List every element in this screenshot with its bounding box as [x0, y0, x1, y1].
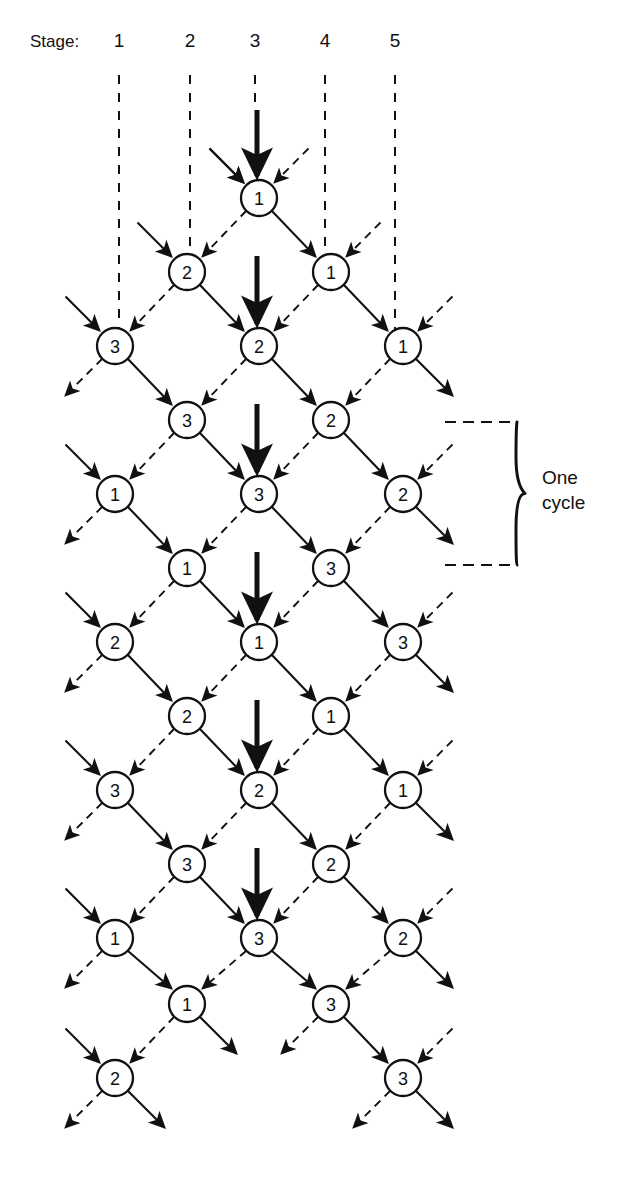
edge-dashed-down-left [131, 433, 175, 479]
lattice-node: 3 [313, 986, 349, 1022]
node-label: 3 [110, 781, 120, 801]
edge-solid-down-right [272, 359, 316, 405]
edge-dashed-stub-in-upper-right [419, 297, 453, 331]
edge-dashed-stub-in-upper-right [419, 1029, 453, 1063]
node-label: 2 [326, 855, 336, 875]
edge-solid-down-right [200, 433, 244, 479]
edge-solid-down-right [200, 877, 244, 923]
stage-tick-3: 3 [250, 30, 261, 51]
lattice-node: 2 [97, 624, 133, 660]
edge-dashed-down-left [275, 581, 319, 627]
node-label: 2 [182, 263, 192, 283]
lattice-node: 3 [241, 920, 277, 956]
edge-solid-down-right [128, 507, 172, 553]
edge-solid-stub-down-right [416, 1091, 453, 1128]
node-label: 2 [182, 707, 192, 727]
edge-dashed-down-left [347, 359, 391, 405]
edge-solid-down-right [200, 1017, 237, 1054]
edge-solid-stub-down-right [416, 359, 453, 396]
node-label: 3 [254, 485, 264, 505]
edge-dashed-stub-in-upper-right [419, 889, 453, 923]
lattice-node: 2 [385, 920, 421, 956]
edge-solid-stub-in-upper-left [138, 223, 172, 257]
edge-solid-down-right [344, 433, 388, 479]
edge-solid-stub-in-upper-left [66, 593, 100, 627]
node-label: 1 [110, 929, 120, 949]
lattice-node: 2 [169, 254, 205, 290]
stage-axis-layer: Stage:12345 [30, 30, 400, 51]
stage-tick-5: 5 [390, 30, 401, 51]
lattice-node: 3 [169, 402, 205, 438]
lattice-node: 1 [169, 986, 205, 1022]
node-label: 1 [326, 707, 336, 727]
edge-solid-down-right [272, 803, 316, 849]
edge-dashed-down-left [203, 507, 247, 553]
edge-solid-down-right [344, 729, 388, 775]
node-label: 1 [398, 781, 408, 801]
node-label: 3 [110, 337, 120, 357]
lattice-node: 2 [241, 328, 277, 364]
lattice-node: 1 [385, 328, 421, 364]
edge-solid-down-right [200, 729, 244, 775]
cycle-brace [516, 422, 525, 565]
stage-tick-4: 4 [320, 30, 331, 51]
edge-dashed-down-left [347, 507, 391, 553]
lattice-node: 2 [313, 846, 349, 882]
edge-solid-down-right [344, 1017, 388, 1063]
edge-solid-down-right [272, 655, 316, 701]
edge-solid-down-right [344, 877, 388, 923]
stage-tick-2: 2 [185, 30, 196, 51]
edge-dashed-down-left [203, 655, 247, 701]
edge-dashed-down-left [203, 951, 247, 989]
node-label: 3 [182, 411, 192, 431]
edge-solid-down-right [272, 211, 316, 257]
lattice-node: 3 [313, 550, 349, 586]
edge-dashed-stub-in-upper-right [419, 445, 453, 479]
edge-dashed-down-left [347, 803, 391, 849]
node-label: 1 [182, 559, 192, 579]
lattice-node: 3 [97, 772, 133, 808]
node-label: 3 [182, 855, 192, 875]
edge-dashed-stub-in-upper-right [419, 741, 453, 775]
figure-canvas: 121321321321321321321321321323 Stage:123… [0, 0, 628, 1184]
edge-solid-down-right [200, 581, 244, 627]
node-label: 3 [326, 995, 336, 1015]
edge-solid-stub-in-upper-left [66, 445, 100, 479]
lattice-node: 3 [241, 476, 277, 512]
lattice-node: 2 [97, 1060, 133, 1096]
edge-dashed-down-left [131, 285, 175, 331]
edge-dashed-stub-down-left [66, 507, 103, 544]
edge-solid-stub-down-right [416, 803, 453, 840]
node-label: 2 [110, 633, 120, 653]
edge-solid-stub-in-upper-left [66, 741, 100, 775]
lattice-node: 2 [241, 772, 277, 808]
edge-solid-down-right [344, 581, 388, 627]
edge-solid-down-right [272, 951, 316, 989]
node-label: 3 [398, 633, 408, 653]
node-label: 1 [254, 633, 264, 653]
edge-solid-down-right [128, 803, 172, 849]
lattice-node: 1 [241, 180, 277, 216]
lattice-node: 1 [313, 254, 349, 290]
edge-solid-down-right [344, 285, 388, 331]
lattice-node: 1 [97, 920, 133, 956]
edge-solid-stub-down-right [416, 655, 453, 692]
trellis-diagram: 121321321321321321321321321323 Stage:123… [0, 0, 628, 1184]
node-label: 2 [398, 929, 408, 949]
lattice-node: 3 [385, 624, 421, 660]
edge-solid-down-right [128, 1091, 165, 1128]
lattice-node: 3 [169, 846, 205, 882]
edge-solid-stub-down-right [416, 951, 453, 988]
node-label: 2 [110, 1069, 120, 1089]
node-label: 1 [182, 995, 192, 1015]
edge-dashed-down-left [354, 1091, 391, 1128]
lattice-node: 2 [313, 402, 349, 438]
node-label: 3 [398, 1069, 408, 1089]
lattice-node: 1 [385, 772, 421, 808]
cycle-label-line-2: cycle [542, 492, 585, 513]
lattice-node: 1 [313, 698, 349, 734]
lattice-node: 1 [169, 550, 205, 586]
cycle-bracket-layer: Onecycle [445, 422, 585, 565]
node-label: 3 [254, 929, 264, 949]
edge-dashed-down-left [275, 729, 319, 775]
